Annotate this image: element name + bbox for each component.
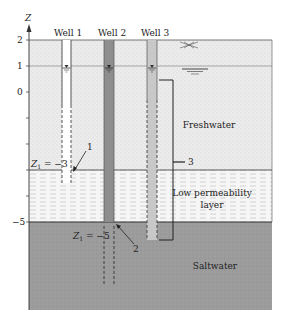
tick-label-0: 0: [17, 87, 23, 97]
well-3-label: Well 3: [141, 28, 169, 38]
low-permeability-label-2: layer: [201, 200, 225, 210]
z1-well1-annotation: Z1 = −3: [30, 159, 68, 170]
tick-label-neg5: −5: [12, 217, 26, 227]
z-axis-label: Z: [24, 13, 32, 23]
callout-2-label: 2: [133, 244, 139, 254]
callout-3-label: 3: [188, 157, 194, 167]
callout-1-label: 1: [87, 142, 93, 152]
tick-label-1: 1: [17, 61, 23, 71]
z1-well2-annotation: Z1 = −5: [72, 231, 110, 242]
low-permeability-label-1: Low permeability: [172, 188, 253, 198]
saltwater-label: Saltwater: [193, 261, 238, 271]
z-axis-arrow-icon: [27, 24, 32, 32]
well-2-label: Well 2: [98, 28, 126, 38]
well-3: [147, 40, 157, 240]
tick-label-2: 2: [17, 35, 23, 45]
freshwater-label: Freshwater: [183, 120, 236, 130]
well-1-label: Well 1: [54, 28, 82, 38]
aquifer-diagram: Z 2 1 0 −5 Well 1 Well 2 Well 3: [0, 0, 284, 328]
